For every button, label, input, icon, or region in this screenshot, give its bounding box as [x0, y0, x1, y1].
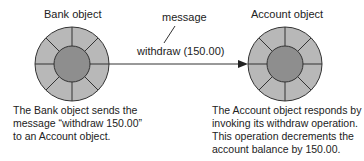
description-line: invoking its withdraw operation.: [212, 117, 361, 130]
description-line: This operation decrements the: [212, 130, 361, 143]
message-leader-line: [164, 26, 175, 43]
description-line: to an Account object.: [13, 130, 142, 143]
message-label: message: [162, 11, 207, 23]
message-arrow-icon: [109, 60, 248, 68]
account-object-title: Account object: [251, 8, 323, 20]
bank-object-description: The Bank object sends the message “withd…: [13, 104, 142, 143]
description-line: account balance by 150.00.: [212, 143, 361, 156]
description-line: The Bank object sends the: [13, 104, 142, 117]
description-line: The Account object responds by: [212, 104, 361, 117]
account-object-icon: [248, 27, 322, 101]
bank-object-icon: [35, 27, 109, 101]
description-line: message “withdraw 150.00”: [13, 117, 142, 130]
message-call-label: withdraw (150.00): [137, 45, 224, 57]
account-object-description: The Account object responds by invoking …: [212, 104, 361, 156]
bank-object-title: Bank object: [44, 8, 101, 20]
